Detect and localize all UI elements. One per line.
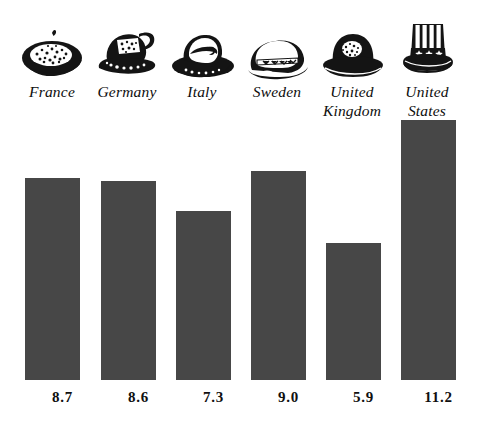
bar-chart: France Germany Italy Sweden United Kingd… bbox=[0, 0, 477, 426]
value-label-france: 8.7 bbox=[25, 388, 100, 406]
value-label-italy: 7.3 bbox=[176, 388, 251, 406]
value-label-row: 8.7 8.6 7.3 9.0 5.9 11.2 bbox=[0, 388, 477, 412]
plot-area bbox=[0, 0, 477, 426]
bar-france bbox=[25, 178, 80, 380]
value-label-united-kingdom: 5.9 bbox=[326, 388, 401, 406]
bar-sweden bbox=[251, 171, 306, 380]
bar-united-states bbox=[401, 120, 456, 380]
bar-germany bbox=[101, 181, 156, 380]
bar-united-kingdom bbox=[326, 243, 381, 380]
value-label-united-states: 11.2 bbox=[401, 388, 476, 406]
value-label-sweden: 9.0 bbox=[251, 388, 326, 406]
bar-italy bbox=[176, 211, 231, 380]
value-label-germany: 8.6 bbox=[101, 388, 176, 406]
